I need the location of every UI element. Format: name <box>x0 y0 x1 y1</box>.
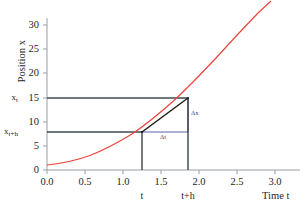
x-tick-label-3-0: 3.0 <box>261 177 289 188</box>
x-label-t-plus-h: t+h <box>172 191 204 201</box>
position-time-figure: Position x 0 5 10 15 20 25 30 xt xt+h 0.… <box>0 0 308 208</box>
y-tick-label-0: 0 <box>18 165 39 176</box>
x-tick-label-0-0: 0.0 <box>33 177 61 188</box>
x-tick-label-1-5: 1.5 <box>147 177 175 188</box>
secant-line <box>142 98 188 132</box>
y-label-x-t-plus-h: xt+h <box>0 127 18 136</box>
x-axis-ticks <box>47 170 275 174</box>
x-label-t: t <box>131 191 153 201</box>
y-tick-label-20: 20 <box>18 68 39 79</box>
x-tick-label-2-0: 2.0 <box>185 177 213 188</box>
secant-point-t-plus-h <box>187 97 189 99</box>
secant-point-t <box>141 131 143 133</box>
x-axis-title: Time t <box>262 191 289 202</box>
y-tick-label-30: 30 <box>18 20 39 31</box>
x-tick-label-0-5: 0.5 <box>71 177 99 188</box>
y-tick-label-15: 15 <box>18 93 39 104</box>
y-label-x-t-subscript: t <box>16 96 18 104</box>
y-axis-title: Position x <box>17 21 28 101</box>
y-tick-label-10: 10 <box>18 117 39 128</box>
y-tick-label-25: 25 <box>18 44 39 55</box>
y-label-x-t: xt <box>0 93 18 102</box>
y-axis-ticks <box>43 25 47 170</box>
delta-x-label: Δx <box>191 110 198 117</box>
x-tick-label-1-0: 1.0 <box>109 177 137 188</box>
y-tick-label-5: 5 <box>18 141 39 152</box>
y-label-x-t-plus-h-subscript: t+h <box>9 130 18 138</box>
position-curve <box>47 1 271 165</box>
delta-t-label: Δt <box>160 134 166 141</box>
y-label-x-t-plus-h-base: x <box>4 126 9 136</box>
x-tick-label-2-5: 2.5 <box>223 177 251 188</box>
